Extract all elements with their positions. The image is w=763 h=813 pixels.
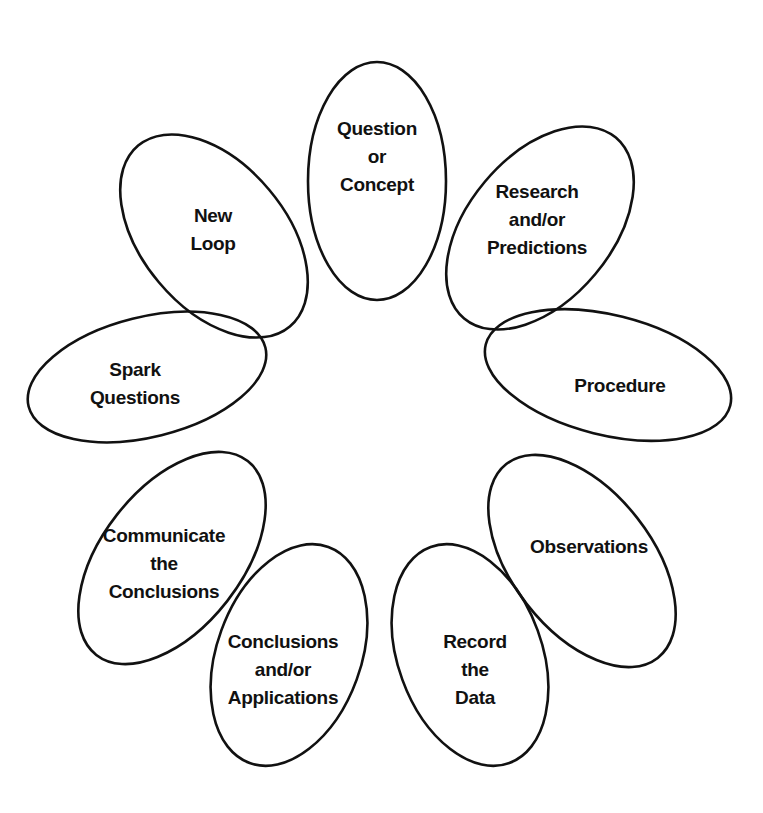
petal-label-line: Question	[337, 118, 417, 139]
petal-label-line: Questions	[90, 387, 180, 408]
petal-label-line: or	[368, 146, 387, 167]
petal-label-line: Procedure	[574, 375, 665, 396]
petal-label-line: Predictions	[487, 237, 587, 258]
petal-label-new-loop: NewLoop	[190, 205, 235, 254]
petal-label-communicate: CommunicatetheConclusions	[103, 525, 225, 602]
petal-label-line: Observations	[530, 536, 648, 557]
petal-label-record: RecordtheData	[443, 631, 507, 708]
petal-label-line: Research	[495, 181, 578, 202]
labels-layer: QuestionorConceptResearchand/orPredictio…	[90, 118, 666, 708]
petal-label-line: and/or	[255, 659, 312, 680]
petal-record	[363, 522, 577, 787]
petal-label-conclusions: Conclusionsand/orApplications	[228, 631, 339, 708]
petal-label-line: Conclusions	[228, 631, 339, 652]
petal-label-line: Conclusions	[109, 581, 220, 602]
petal-label-line: New	[194, 205, 233, 226]
petal-label-spark: SparkQuestions	[90, 359, 180, 408]
petal-label-line: the	[150, 553, 178, 574]
petal-label-question: QuestionorConcept	[337, 118, 417, 195]
petal-label-research: Researchand/orPredictions	[487, 181, 587, 258]
petal-label-observations: Observations	[530, 536, 648, 557]
petal-label-line: Spark	[109, 359, 161, 380]
petal-label-line: Applications	[228, 687, 338, 708]
petal-label-line: Communicate	[103, 525, 225, 546]
petal-label-line: the	[461, 659, 489, 680]
petal-label-procedure: Procedure	[574, 375, 665, 396]
petal-conclusions	[182, 522, 396, 787]
petal-label-line: Loop	[190, 233, 235, 254]
petal-label-line: and/or	[509, 209, 566, 230]
petal-label-line: Record	[443, 631, 507, 652]
petal-label-line: Concept	[340, 174, 415, 195]
petals-layer	[14, 62, 745, 788]
scientific-method-cycle-diagram: QuestionorConceptResearchand/orPredictio…	[0, 0, 763, 813]
petal-label-line: Data	[455, 687, 496, 708]
